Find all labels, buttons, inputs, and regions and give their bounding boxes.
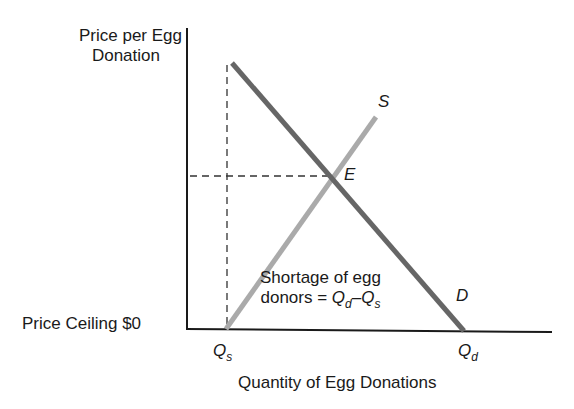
qs-label: Qs (213, 341, 232, 362)
y-axis-label-line1: Price per Egg (28, 26, 182, 46)
x-axis (186, 329, 552, 332)
y-axis-label: Price per Egg Donation (28, 26, 182, 66)
x-axis-label: Quantity of Egg Donations (238, 373, 436, 393)
supply-label: S (378, 92, 389, 112)
qs-letter: Q (213, 341, 226, 360)
demand-label: D (456, 286, 468, 306)
shortage-minus: – (352, 288, 361, 307)
shortage-qs: Q (361, 288, 374, 307)
equilibrium-label: E (344, 165, 355, 185)
shortage-annotation: Shortage of egg donors = Qd–Qs (260, 268, 381, 309)
shortage-qd: Q (332, 288, 345, 307)
shortage-qd-sub: d (345, 297, 352, 311)
qs-subscript: s (226, 350, 232, 364)
qd-subscript: d (471, 350, 478, 364)
shortage-prefix: donors = (261, 288, 332, 307)
y-axis-label-line2: Donation (28, 46, 182, 66)
qd-letter: Q (458, 341, 471, 360)
price-ceiling-label: Price Ceiling $0 (22, 314, 141, 334)
qd-label: Qd (458, 341, 478, 362)
shortage-qs-sub: s (374, 297, 380, 311)
shortage-line1: Shortage of egg (260, 268, 381, 288)
shortage-line2: donors = Qd–Qs (260, 288, 381, 309)
